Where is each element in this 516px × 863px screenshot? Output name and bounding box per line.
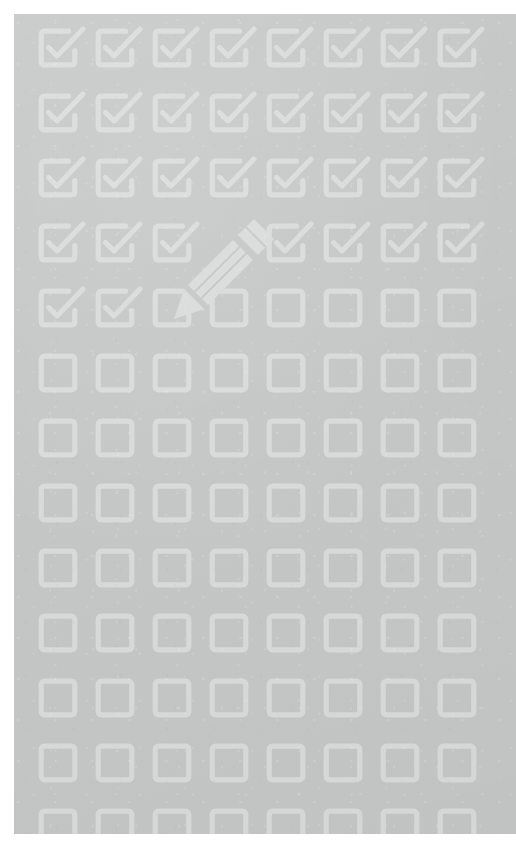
checkbox-empty-icon[interactable] [38, 418, 78, 458]
checkbox-empty-icon[interactable] [266, 353, 306, 393]
checkbox-empty-icon[interactable] [266, 743, 306, 783]
checkbox-checked-icon[interactable] [95, 28, 135, 68]
checkbox-checked-icon[interactable] [266, 158, 306, 198]
checkbox-checked-icon[interactable] [209, 93, 249, 133]
checkbox-empty-icon[interactable] [152, 613, 192, 653]
checkbox-empty-icon[interactable] [152, 483, 192, 523]
checkbox-checked-icon[interactable] [152, 158, 192, 198]
checkbox-empty-icon[interactable] [323, 418, 363, 458]
checkbox-empty-icon[interactable] [380, 418, 420, 458]
checkbox-empty-icon[interactable] [152, 808, 192, 834]
checkbox-checked-icon[interactable] [38, 223, 78, 263]
checkbox-empty-icon[interactable] [323, 743, 363, 783]
checkbox-checked-icon[interactable] [380, 28, 420, 68]
checkbox-empty-icon[interactable] [266, 613, 306, 653]
checkbox-empty-icon[interactable] [152, 353, 192, 393]
checkbox-empty-icon[interactable] [380, 548, 420, 588]
checkbox-empty-icon[interactable] [209, 418, 249, 458]
checkbox-empty-icon[interactable] [38, 678, 78, 718]
checkbox-empty-icon[interactable] [38, 808, 78, 834]
checkbox-checked-icon[interactable] [152, 28, 192, 68]
checkbox-empty-icon[interactable] [266, 483, 306, 523]
checkbox-checked-icon[interactable] [266, 28, 306, 68]
checkbox-checked-icon[interactable] [38, 288, 78, 328]
checkbox-checked-icon[interactable] [437, 28, 477, 68]
checkbox-empty-icon[interactable] [95, 418, 135, 458]
checkbox-empty-icon[interactable] [209, 808, 249, 834]
checkbox-empty-icon[interactable] [380, 743, 420, 783]
checkbox-empty-icon[interactable] [266, 288, 306, 328]
checkbox-empty-icon[interactable] [437, 548, 477, 588]
checkbox-empty-icon[interactable] [152, 743, 192, 783]
checkbox-empty-icon[interactable] [380, 483, 420, 523]
checkbox-empty-icon[interactable] [437, 288, 477, 328]
checkbox-checked-icon[interactable] [437, 93, 477, 133]
checkbox-empty-icon[interactable] [209, 613, 249, 653]
checkbox-empty-icon[interactable] [323, 678, 363, 718]
checkbox-checked-icon[interactable] [380, 223, 420, 263]
checkbox-checked-icon[interactable] [38, 93, 78, 133]
checkbox-empty-icon[interactable] [209, 743, 249, 783]
checkbox-empty-icon[interactable] [95, 613, 135, 653]
checkbox-empty-icon[interactable] [266, 418, 306, 458]
checkbox-empty-icon[interactable] [380, 678, 420, 718]
checkbox-empty-icon[interactable] [38, 743, 78, 783]
checkbox-checked-icon[interactable] [323, 93, 363, 133]
checkbox-empty-icon[interactable] [380, 353, 420, 393]
checkbox-empty-icon[interactable] [266, 808, 306, 834]
checkbox-empty-icon[interactable] [95, 743, 135, 783]
checkbox-checked-icon[interactable] [437, 223, 477, 263]
checkbox-empty-icon[interactable] [323, 548, 363, 588]
checkbox-empty-icon[interactable] [380, 808, 420, 834]
checkbox-empty-icon[interactable] [152, 548, 192, 588]
checkbox-checked-icon[interactable] [38, 158, 78, 198]
checkbox-empty-icon[interactable] [266, 548, 306, 588]
checkbox-checked-icon[interactable] [380, 93, 420, 133]
checkbox-checked-icon[interactable] [266, 93, 306, 133]
checkbox-empty-icon[interactable] [323, 483, 363, 523]
checkbox-checked-icon[interactable] [38, 28, 78, 68]
checkbox-checked-icon[interactable] [95, 288, 135, 328]
checkbox-empty-icon[interactable] [209, 353, 249, 393]
checkbox-empty-icon[interactable] [266, 678, 306, 718]
checkbox-empty-icon[interactable] [437, 353, 477, 393]
checkbox-empty-icon[interactable] [152, 418, 192, 458]
checkbox-empty-icon[interactable] [323, 808, 363, 834]
checkbox-checked-icon[interactable] [380, 158, 420, 198]
checkbox-checked-icon[interactable] [95, 158, 135, 198]
checkbox-empty-icon[interactable] [323, 353, 363, 393]
checkbox-checked-icon[interactable] [437, 158, 477, 198]
checkbox-checked-icon[interactable] [266, 223, 306, 263]
checkbox-empty-icon[interactable] [437, 613, 477, 653]
checkbox-empty-icon[interactable] [209, 548, 249, 588]
checkbox-checked-icon[interactable] [95, 223, 135, 263]
checkbox-empty-icon[interactable] [38, 548, 78, 588]
checkbox-empty-icon[interactable] [437, 678, 477, 718]
checkbox-empty-icon[interactable] [437, 418, 477, 458]
checkbox-empty-icon[interactable] [323, 288, 363, 328]
checkbox-empty-icon[interactable] [323, 613, 363, 653]
checkbox-empty-icon[interactable] [95, 353, 135, 393]
checkbox-checked-icon[interactable] [323, 223, 363, 263]
checkbox-empty-icon[interactable] [437, 483, 477, 523]
checkbox-empty-icon[interactable] [437, 743, 477, 783]
checkbox-empty-icon[interactable] [38, 483, 78, 523]
checkbox-checked-icon[interactable] [323, 158, 363, 198]
checkbox-empty-icon[interactable] [95, 483, 135, 523]
checkbox-empty-icon[interactable] [152, 678, 192, 718]
checkbox-checked-icon[interactable] [95, 93, 135, 133]
checkbox-empty-icon[interactable] [209, 288, 249, 328]
checkbox-checked-icon[interactable] [209, 28, 249, 68]
checkbox-empty-icon[interactable] [38, 613, 78, 653]
checkbox-being-checked-icon[interactable] [152, 288, 192, 328]
checkbox-empty-icon[interactable] [95, 678, 135, 718]
checkbox-empty-icon[interactable] [95, 548, 135, 588]
checkbox-checked-icon[interactable] [152, 93, 192, 133]
checkbox-empty-icon[interactable] [209, 483, 249, 523]
checkbox-empty-icon[interactable] [209, 678, 249, 718]
checkbox-checked-icon[interactable] [209, 158, 249, 198]
checkbox-empty-icon[interactable] [380, 288, 420, 328]
checkbox-empty-icon[interactable] [437, 808, 477, 834]
checkbox-empty-icon[interactable] [95, 808, 135, 834]
checkbox-checked-icon[interactable] [152, 223, 192, 263]
